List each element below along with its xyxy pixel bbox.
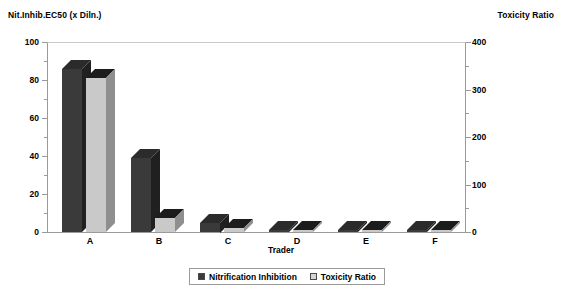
- left-tick-40: 40: [9, 151, 39, 161]
- bar-front-face: [431, 230, 451, 232]
- legend-swatch-icon: [198, 273, 205, 280]
- x-axis-line: [47, 232, 466, 233]
- bar-c-series2: [224, 219, 253, 232]
- bar-front-face: [362, 230, 382, 232]
- bar-front-face: [293, 230, 313, 232]
- left-tickmark-30: [44, 175, 47, 176]
- bar-front-face: [224, 228, 244, 232]
- chart-legend: Nitrification Inhibition Toxicity Ratio: [189, 268, 385, 285]
- left-tick-20: 20: [9, 189, 39, 199]
- left-tickmark-40: [42, 156, 47, 157]
- bar-front-face: [62, 69, 82, 232]
- bar-front-face: [155, 218, 175, 232]
- legend-label: Toxicity Ratio: [321, 272, 376, 282]
- left-tickmark-20: [42, 194, 47, 195]
- bar-e-series2: [362, 221, 391, 232]
- right-tick-400: 400: [472, 37, 506, 47]
- legend-item-toxicity-ratio[interactable]: Toxicity Ratio: [310, 272, 376, 282]
- bar-f-series2: [431, 221, 460, 232]
- left-tickmark-10: [44, 213, 47, 214]
- legend-swatch-icon: [310, 273, 317, 280]
- left-tickmark-70: [44, 99, 47, 100]
- right-tick-200: 200: [472, 132, 506, 142]
- left-tick-60: 60: [9, 113, 39, 123]
- left-tickmark-0: [42, 232, 47, 233]
- bar-a-series2: [86, 69, 115, 232]
- right-tickmark-150: [466, 161, 469, 162]
- right-tick-0: 0: [472, 227, 506, 237]
- bar-d-series2: [293, 221, 322, 232]
- left-tick-100: 100: [9, 37, 39, 47]
- left-tickmark-60: [42, 118, 47, 119]
- right-tickmark-350: [466, 66, 469, 67]
- bar-front-face: [407, 230, 427, 232]
- right-tickmark-100: [466, 185, 471, 186]
- right-tickmark-300: [466, 90, 471, 91]
- legend-item-nitrification-inhibition[interactable]: Nitrification Inhibition: [198, 272, 297, 282]
- bar-front-face: [269, 230, 289, 232]
- bar-front-face: [131, 158, 151, 232]
- right-axis-title: Toxicity Ratio: [497, 10, 554, 20]
- bar-front-face: [86, 78, 106, 232]
- left-tickmark-80: [42, 80, 47, 81]
- right-tickmark-0: [466, 232, 471, 233]
- bar-b-series2: [155, 209, 184, 232]
- bar-chart: Nit.Inhib.EC50 (x Diln.) Toxicity Ratio …: [0, 0, 562, 300]
- left-tick-0: 0: [9, 227, 39, 237]
- right-tick-300: 300: [472, 85, 506, 95]
- bar-side-face: [106, 69, 115, 232]
- x-axis-title: Trader: [0, 245, 562, 255]
- right-tickmark-200: [466, 137, 471, 138]
- left-axis-title: Nit.Inhib.EC50 (x Diln.): [8, 10, 102, 20]
- bar-front-face: [338, 230, 358, 232]
- right-tick-100: 100: [472, 180, 506, 190]
- right-tickmark-400: [466, 42, 471, 43]
- left-tick-80: 80: [9, 75, 39, 85]
- left-tickmark-100: [42, 42, 47, 43]
- legend-label: Nitrification Inhibition: [209, 272, 297, 282]
- right-tickmark-50: [466, 208, 469, 209]
- left-tickmark-50: [44, 137, 47, 138]
- bar-front-face: [200, 223, 220, 233]
- right-tickmark-250: [466, 113, 469, 114]
- left-tickmark-90: [44, 61, 47, 62]
